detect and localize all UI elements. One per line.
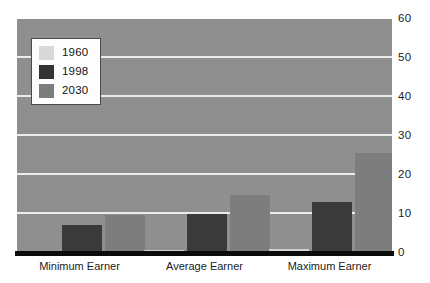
bar-minimum-earner-2030 [105, 215, 145, 253]
y-tick-label: 0 [398, 247, 405, 259]
y-tick-label: 50 [398, 52, 411, 64]
legend-item-1960[interactable]: 1960 [39, 45, 88, 60]
x-category-label: Maximum Earner [267, 260, 392, 272]
y-tick-label: 20 [398, 169, 411, 181]
legend-swatch-1998 [39, 65, 54, 79]
legend-swatch-2030 [39, 84, 54, 98]
legend-label-1998: 1998 [62, 66, 88, 78]
legend-item-1998[interactable]: 1998 [39, 64, 88, 79]
y-tick-label: 10 [398, 208, 411, 220]
bar-maximum-earner-1998 [312, 202, 352, 253]
legend-label-2030: 2030 [62, 85, 88, 97]
legend: 1960 1998 2030 [31, 38, 101, 105]
bar-chart: 0102030405060 Minimum EarnerAverage Earn… [0, 0, 430, 283]
x-axis-baseline [15, 251, 394, 256]
y-tick-label: 30 [398, 130, 411, 142]
legend-item-2030[interactable]: 2030 [39, 83, 88, 98]
bar-average-earner-1998 [187, 214, 227, 253]
gridline-20 [17, 173, 392, 175]
legend-label-1960: 1960 [62, 47, 88, 59]
y-tick-label: 60 [398, 13, 411, 25]
y-tick-label: 40 [398, 91, 411, 103]
x-category-label: Average Earner [142, 260, 267, 272]
x-axis: Minimum EarnerAverage EarnerMaximum Earn… [17, 260, 392, 280]
x-category-label: Minimum Earner [17, 260, 142, 272]
bar-minimum-earner-1998 [62, 225, 102, 253]
legend-swatch-1960 [39, 46, 54, 60]
bar-maximum-earner-2030 [355, 153, 393, 253]
gridline-30 [17, 134, 392, 136]
bar-average-earner-2030 [230, 195, 270, 254]
y-axis: 0102030405060 [398, 0, 430, 283]
